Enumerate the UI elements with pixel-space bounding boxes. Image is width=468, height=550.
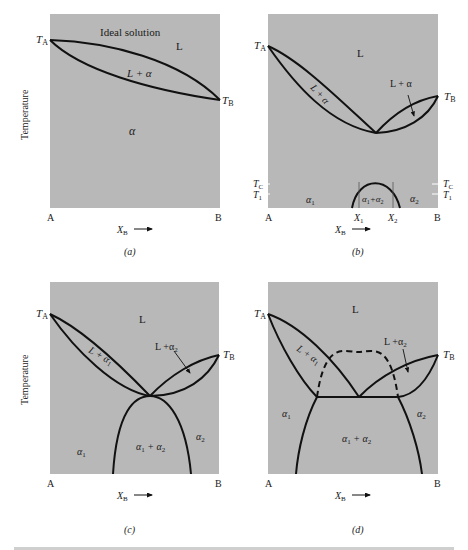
corner-b: B: [215, 212, 222, 223]
label-tb: TB: [223, 348, 234, 362]
label-ta: TA: [254, 307, 266, 321]
label-tb: TB: [222, 94, 233, 108]
label-ta: TA: [36, 33, 48, 47]
y-axis-label: Temperature: [19, 354, 30, 405]
corner-b: B: [215, 478, 222, 489]
region-alpha1-alpha2: α1+α2: [362, 194, 384, 205]
label-tb: TB: [443, 348, 454, 362]
panel-d: L L + α1 L +α2 α1 α2 α1 + α2 TA TB A B X…: [254, 282, 454, 536]
panel-b: L L + α L + α α1 α2 α1+α2 TA TB TC T1 TC…: [253, 14, 455, 258]
panel-caption: (a): [124, 246, 136, 258]
corner-a: A: [265, 478, 273, 489]
region-two-phase: L + α: [126, 67, 152, 79]
x-axis-label: XB: [116, 224, 128, 237]
panel-c: L L + α1 L +α2 α1 α2 α1 + α2 TA TB A B X…: [36, 282, 234, 536]
label-tb: TB: [444, 90, 455, 104]
panel-caption: (b): [352, 246, 364, 258]
region-liquid: L: [139, 313, 146, 325]
region-liquid: L: [176, 40, 183, 52]
y-axis-label: Temperature: [19, 89, 30, 140]
region-alpha: α: [129, 124, 136, 138]
panel-a: Ideal solution L L + α α TA TB A B XB (a…: [36, 14, 233, 258]
panel-a-background: [50, 14, 220, 208]
corner-b: B: [434, 478, 441, 489]
x-axis-label: XB: [334, 490, 346, 503]
panel-caption: (d): [352, 524, 364, 536]
phase-diagram-figure: Ideal solution L L + α α TA TB A B XB (a…: [0, 0, 468, 550]
region-liquid: L: [352, 303, 359, 315]
corner-b: B: [434, 212, 441, 223]
label-ta: TA: [254, 39, 266, 53]
label-x1: X1: [353, 212, 364, 225]
corner-a: A: [265, 212, 273, 223]
label-ta: TA: [36, 307, 48, 321]
corner-a: A: [47, 478, 55, 489]
x-axis-label: XB: [334, 224, 346, 237]
panel-c-background: [50, 282, 219, 474]
x-axis-label: XB: [116, 490, 128, 503]
region-liquid: L: [357, 47, 364, 59]
corner-a: A: [47, 212, 55, 223]
region-two-phase-right: L + α: [390, 78, 412, 89]
panel-title: Ideal solution: [100, 26, 161, 38]
label-x2: X2: [387, 212, 398, 225]
panel-caption: (c): [124, 524, 136, 536]
